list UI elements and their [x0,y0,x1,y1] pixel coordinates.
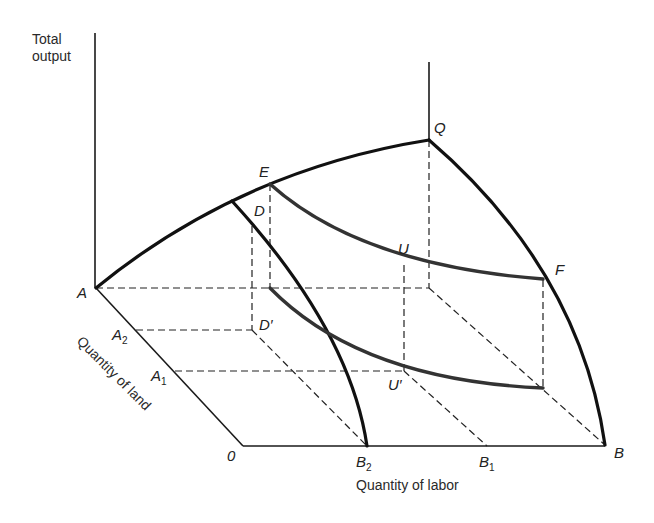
total-output-label-line1: Total [32,31,62,47]
label-Q: Q [434,119,446,136]
label-B1: B1 [479,453,495,473]
label-A2: A2 [111,326,128,346]
label-origin: 0 [227,447,236,464]
label-A1: A1 [150,367,167,387]
label-D-prime: D′ [259,316,274,333]
label-F: F [555,261,565,278]
label-B2: B2 [356,453,372,473]
label-E: E [259,163,270,180]
label-B: B [614,444,624,461]
curve-E-F [270,184,543,279]
label-A: A [76,284,87,301]
quantity-of-labor-label: Quantity of labor [356,477,459,493]
label-D: D [254,202,265,219]
quantity-of-land-label: Quantity of land [74,333,155,414]
label-U-prime: U′ [388,376,403,393]
production-surface-diagram: Total output Quantity of land Quantity o… [0,0,654,523]
label-U: U [398,240,409,257]
dash-Dprime-B2 [252,330,367,446]
dash-rear-B [429,288,605,445]
curve-Q-B [429,140,605,445]
total-output-label-line2: output [32,48,71,64]
